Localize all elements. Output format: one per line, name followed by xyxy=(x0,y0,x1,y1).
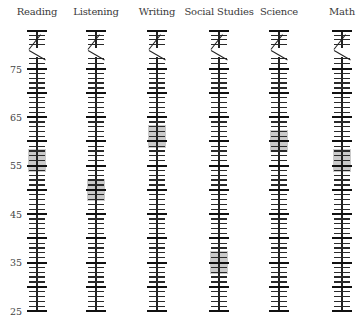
minor-tick xyxy=(29,160,45,161)
minor-tick xyxy=(271,276,287,277)
major-tick xyxy=(147,213,167,215)
major-tick xyxy=(269,310,289,312)
axis-break-mark xyxy=(28,34,41,50)
minor-tick xyxy=(29,204,45,205)
minor-tick xyxy=(271,82,287,83)
minor-tick xyxy=(88,276,104,277)
minor-tick xyxy=(149,223,165,224)
minor-tick xyxy=(88,223,104,224)
major-tick xyxy=(209,92,229,94)
minor-tick xyxy=(149,204,165,205)
minor-tick xyxy=(149,194,165,195)
minor-tick xyxy=(29,150,45,151)
minor-tick xyxy=(211,218,227,219)
minor-tick xyxy=(88,170,104,171)
major-tick xyxy=(86,262,106,264)
major-tick xyxy=(27,262,47,264)
minor-tick xyxy=(29,63,45,64)
minor-tick xyxy=(271,131,287,132)
minor-tick xyxy=(149,63,165,64)
minor-tick xyxy=(29,199,45,200)
major-tick xyxy=(27,92,47,94)
minor-tick xyxy=(88,73,104,74)
axis-break-mark xyxy=(210,34,223,50)
minor-tick xyxy=(334,97,350,98)
axis-break-mark xyxy=(333,34,346,50)
major-tick xyxy=(269,237,289,239)
major-tick xyxy=(27,116,47,118)
minor-tick xyxy=(88,131,104,132)
minor-tick xyxy=(149,82,165,83)
minor-tick xyxy=(88,82,104,83)
minor-tick xyxy=(149,218,165,219)
minor-tick xyxy=(29,228,45,229)
major-tick xyxy=(86,140,106,142)
minor-tick xyxy=(88,97,104,98)
major-tick xyxy=(332,140,352,142)
minor-tick xyxy=(29,272,45,273)
minor-tick xyxy=(29,218,45,219)
minor-tick xyxy=(29,194,45,195)
minor-tick xyxy=(271,175,287,176)
minor-tick xyxy=(211,296,227,297)
minor-tick xyxy=(271,155,287,156)
minor-tick xyxy=(334,63,350,64)
major-tick xyxy=(147,262,167,264)
major-tick xyxy=(86,237,106,239)
major-tick xyxy=(332,262,352,264)
minor-tick xyxy=(149,306,165,307)
minor-tick xyxy=(88,175,104,176)
minor-tick xyxy=(29,155,45,156)
major-tick xyxy=(27,237,47,239)
major-tick xyxy=(86,68,106,70)
minor-tick xyxy=(211,233,227,234)
scales-layer xyxy=(0,0,364,325)
minor-tick xyxy=(211,102,227,103)
minor-tick xyxy=(211,126,227,127)
minor-tick xyxy=(271,126,287,127)
minor-tick xyxy=(271,107,287,108)
minor-tick xyxy=(29,179,45,180)
major-tick xyxy=(209,286,229,288)
major-tick xyxy=(269,213,289,215)
minor-tick xyxy=(88,291,104,292)
minor-tick xyxy=(149,291,165,292)
minor-tick xyxy=(271,170,287,171)
minor-tick xyxy=(334,73,350,74)
minor-tick xyxy=(271,97,287,98)
minor-tick xyxy=(149,228,165,229)
major-tick xyxy=(269,189,289,191)
minor-tick xyxy=(88,228,104,229)
minor-tick xyxy=(88,218,104,219)
minor-tick xyxy=(29,131,45,132)
minor-tick xyxy=(88,204,104,205)
minor-tick xyxy=(211,146,227,147)
minor-tick xyxy=(149,131,165,132)
major-tick xyxy=(332,116,352,118)
minor-tick xyxy=(29,281,45,282)
minor-tick xyxy=(334,223,350,224)
minor-tick xyxy=(334,204,350,205)
minor-tick xyxy=(29,97,45,98)
minor-tick xyxy=(334,126,350,127)
minor-tick xyxy=(149,267,165,268)
top-tick xyxy=(332,30,352,32)
minor-tick xyxy=(211,204,227,205)
minor-tick xyxy=(88,155,104,156)
minor-tick xyxy=(334,179,350,180)
minor-tick xyxy=(211,243,227,244)
minor-tick xyxy=(271,146,287,147)
major-tick xyxy=(27,165,47,167)
axis-break-mark xyxy=(148,34,161,50)
minor-tick xyxy=(211,276,227,277)
minor-tick xyxy=(334,102,350,103)
minor-tick xyxy=(149,160,165,161)
minor-tick xyxy=(149,247,165,248)
major-tick xyxy=(86,189,106,191)
minor-tick xyxy=(149,272,165,273)
minor-tick xyxy=(271,184,287,185)
minor-tick xyxy=(334,296,350,297)
minor-tick xyxy=(334,228,350,229)
minor-tick xyxy=(149,97,165,98)
major-tick xyxy=(147,286,167,288)
